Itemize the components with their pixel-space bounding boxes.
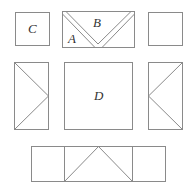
flying-geese-right xyxy=(149,63,183,130)
label-c: C xyxy=(28,21,37,36)
quilt-diagram: C B A D xyxy=(0,0,189,187)
label-b: B xyxy=(93,15,101,30)
label-a: A xyxy=(67,31,76,46)
flying-geese-left xyxy=(15,63,49,130)
square-plain xyxy=(149,13,183,46)
strip-bottom xyxy=(32,147,166,182)
label-d: D xyxy=(93,88,104,103)
